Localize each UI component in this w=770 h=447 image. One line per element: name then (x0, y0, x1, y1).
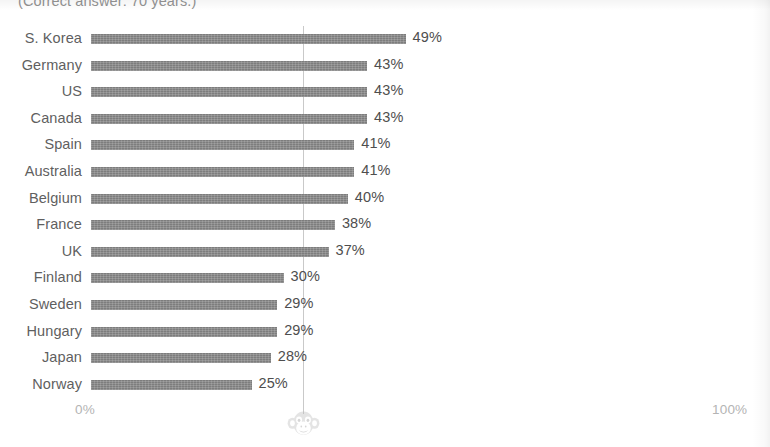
bar (91, 300, 277, 310)
bar-row: Germany43% (0, 55, 770, 81)
bar (91, 220, 335, 230)
bar-row-label: Australia (0, 163, 82, 179)
bar-row-label: Japan (0, 349, 82, 365)
chart-page: (Correct answer: 70 years.) S. Korea49%G… (0, 0, 770, 447)
bar-row: Finland30% (0, 267, 770, 293)
bar-value-label: 41% (361, 162, 390, 178)
bar-row-label: Canada (0, 110, 82, 126)
bar-row: Norway25% (0, 374, 770, 400)
bar (91, 140, 354, 150)
bar (91, 114, 367, 124)
bar-row: Hungary29% (0, 321, 770, 347)
bar-row-label: S. Korea (0, 30, 82, 46)
bar-value-label: 29% (284, 322, 313, 338)
bar-row: S. Korea49% (0, 28, 770, 54)
bar-row-label: Belgium (0, 190, 82, 206)
bar-value-label: 40% (355, 189, 384, 205)
bar (91, 194, 348, 204)
monkey-face-icon (287, 410, 320, 438)
bar-row: Australia41% (0, 161, 770, 187)
bar (91, 353, 271, 363)
bar-row: France38% (0, 214, 770, 240)
bar (91, 167, 354, 177)
bar-value-label: 37% (336, 242, 365, 258)
bar (91, 380, 252, 390)
bar-value-label: 43% (374, 56, 403, 72)
bar-row-label: UK (0, 243, 82, 259)
bar-value-label: 30% (291, 268, 320, 284)
bar-value-label: 38% (342, 215, 371, 231)
bar-row: Sweden29% (0, 294, 770, 320)
bar (91, 87, 367, 97)
bar-row-label: Sweden (0, 296, 82, 312)
bar-row: Spain41% (0, 134, 770, 160)
bar-row-label: France (0, 216, 82, 232)
bar-row-label: Norway (0, 376, 82, 392)
bar-row: Belgium40% (0, 188, 770, 214)
bar-row-label: Spain (0, 136, 82, 152)
bar-row-label: Hungary (0, 323, 82, 339)
bar-value-label: 43% (374, 82, 403, 98)
axis-tick-max: 100% (712, 402, 747, 417)
bar-row-label: US (0, 83, 82, 99)
bar-value-label: 29% (284, 295, 313, 311)
bar-row-label: Finland (0, 269, 82, 285)
bar-row: Canada43% (0, 108, 770, 134)
bar (91, 61, 367, 71)
axis-tick-min: 0% (75, 402, 95, 417)
bar (91, 327, 277, 337)
bar (91, 273, 284, 283)
bar-value-label: 41% (361, 135, 390, 151)
bar-value-label: 43% (374, 109, 403, 125)
bar-row: UK37% (0, 241, 770, 267)
bar (91, 34, 406, 44)
bar-row: US43% (0, 81, 770, 107)
bar-value-label: 28% (278, 348, 307, 364)
bar (91, 247, 329, 257)
bar-row: Japan28% (0, 347, 770, 373)
bar-value-label: 25% (259, 375, 288, 391)
bar-row-label: Germany (0, 57, 82, 73)
chart-plot-area: S. Korea49%Germany43%US43%Canada43%Spain… (0, 0, 770, 447)
bar-value-label: 49% (413, 29, 442, 45)
